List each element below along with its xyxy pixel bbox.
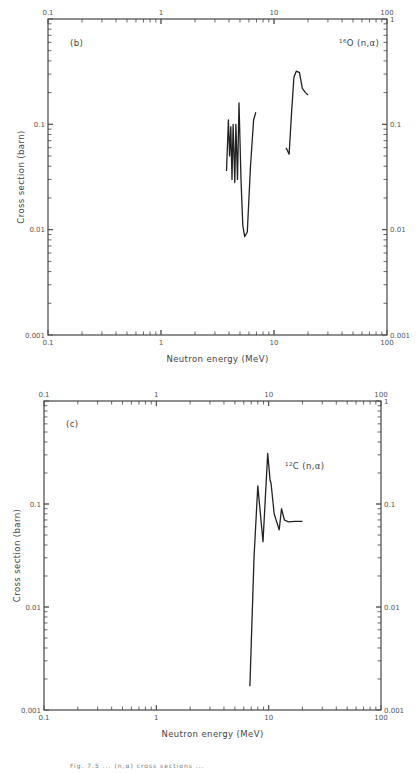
x-axis-label: Neutron energy (MeV) — [161, 729, 263, 739]
y-tick-label-right: 0.001 — [384, 707, 404, 715]
figure-caption: Fig. 7.5 ... (n,α) cross sections ... — [70, 762, 204, 769]
x-tick-label-top: 0.1 — [42, 9, 53, 17]
x-tick-label: 1 — [159, 339, 163, 347]
y-tick-label: 0.01 — [25, 604, 41, 612]
x-tick-label-top: 10 — [270, 9, 279, 17]
y-tick-label-right: 0.01 — [390, 226, 406, 234]
y-tick-label-right: 0.1 — [390, 121, 401, 129]
y-tick-label: 0.001 — [21, 707, 41, 715]
y-tick-label-right: 0.1 — [384, 501, 395, 509]
x-tick-label-top: 1 — [159, 9, 163, 17]
data-series-c-0 — [250, 453, 303, 686]
reaction-label: 12C (n,α) — [285, 461, 325, 471]
x-axis-label: Neutron energy (MeV) — [166, 354, 268, 364]
plot-panel-c: 0.10.111101010010010.10.10.010.010.0010.… — [12, 391, 404, 739]
x-tick-label-top: 1 — [154, 391, 158, 399]
y-axis-label: Cross section (barn) — [16, 130, 26, 223]
panel-label: (b) — [70, 38, 83, 48]
x-tick-label: 0.1 — [38, 714, 49, 722]
x-tick-label: 100 — [380, 339, 393, 347]
y-tick-label: 0.1 — [34, 121, 45, 129]
x-tick-label: 0.1 — [42, 339, 53, 347]
y-tick-label-right: 1 — [384, 398, 388, 406]
reaction-label: 16O (n,α) — [339, 38, 379, 48]
x-tick-label-top: 10 — [264, 391, 273, 399]
y-tick-label-right: 1 — [390, 16, 394, 24]
panel-label: (c) — [66, 419, 79, 429]
plot-frame — [44, 401, 381, 710]
x-tick-label-top: 0.1 — [38, 391, 49, 399]
plot-frame — [48, 19, 387, 335]
y-axis-label: Cross section (barn) — [12, 509, 22, 602]
y-tick-label-right: 0.001 — [390, 332, 410, 340]
y-tick-label: 0.001 — [25, 332, 45, 340]
data-series-b-1 — [286, 71, 308, 154]
x-tick-label: 1 — [154, 714, 158, 722]
data-series-b-0 — [227, 103, 256, 237]
chart-figure: 0.10.111101010010010.10.10.010.010.0010.… — [0, 0, 420, 773]
y-tick-label-right: 0.01 — [384, 604, 400, 612]
y-tick-label: 0.01 — [29, 226, 45, 234]
x-tick-label: 10 — [264, 714, 273, 722]
x-tick-label: 10 — [270, 339, 279, 347]
x-tick-label: 100 — [374, 714, 387, 722]
y-tick-label: 0.1 — [30, 501, 41, 509]
plot-panel-b: 0.10.111101010010010.10.10.010.010.0010.… — [16, 9, 410, 364]
